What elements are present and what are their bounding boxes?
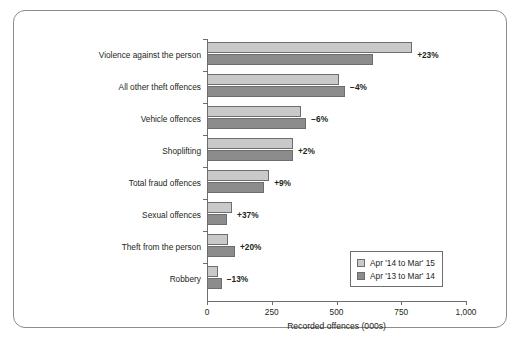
x-axis-tick xyxy=(272,301,273,305)
x-axis-tick-label: 250 xyxy=(265,307,279,317)
x-axis-tick-label: 0 xyxy=(205,307,210,317)
category-label: Vehicle offences xyxy=(141,114,201,124)
percent-change-label: −6% xyxy=(311,114,328,124)
chart-category-row: Sexual offences+37% xyxy=(207,199,466,231)
bar-prior xyxy=(207,278,222,289)
bar-recent xyxy=(207,170,269,181)
legend-item-prior[interactable]: Apr '13 to Mar' 14 xyxy=(357,269,435,282)
category-label: Total fraud offences xyxy=(129,178,201,188)
bar-recent xyxy=(207,234,228,245)
percent-change-label: −13% xyxy=(227,274,248,284)
bar-prior xyxy=(207,214,227,225)
legend-swatch-recent xyxy=(357,259,365,267)
bar-prior xyxy=(207,86,345,97)
bar-recent xyxy=(207,266,218,277)
x-axis-tick-label: 1,000 xyxy=(456,307,477,317)
legend-item-recent[interactable]: Apr '14 to Mar' 15 xyxy=(357,256,435,269)
y-axis-tick xyxy=(203,199,207,200)
y-axis-tick xyxy=(203,231,207,232)
bar-recent xyxy=(207,106,301,117)
percent-change-label: −4% xyxy=(350,82,367,92)
x-axis-tick xyxy=(207,301,208,305)
bar-prior xyxy=(207,54,373,65)
bar-prior xyxy=(207,118,306,129)
bar-prior xyxy=(207,150,293,161)
category-label: Violence against the person xyxy=(99,50,201,60)
chart-category-row: Vehicle offences−6% xyxy=(207,103,466,135)
percent-change-label: +37% xyxy=(237,210,258,220)
bar-recent xyxy=(207,42,412,53)
category-label: Sexual offences xyxy=(142,210,201,220)
category-label: Shoplifting xyxy=(162,146,201,156)
percent-change-label: +9% xyxy=(274,178,291,188)
x-axis-tick xyxy=(401,301,402,305)
bar-prior xyxy=(207,246,235,257)
x-axis-tick xyxy=(466,301,467,305)
bar-prior xyxy=(207,182,264,193)
percent-change-label: +20% xyxy=(240,242,261,252)
x-axis-tick-label: 500 xyxy=(330,307,344,317)
y-axis-tick xyxy=(203,103,207,104)
category-label: All other theft offences xyxy=(119,82,201,92)
x-axis-tick xyxy=(337,301,338,305)
legend-swatch-prior xyxy=(357,272,365,280)
y-axis-tick xyxy=(203,167,207,168)
legend-label-recent: Apr '14 to Mar' 15 xyxy=(370,258,435,268)
chart-category-row: Violence against the person+23% xyxy=(207,39,466,71)
x-axis-tick-label: 750 xyxy=(394,307,408,317)
chart-category-row: Shoplifting+2% xyxy=(207,135,466,167)
percent-change-label: +2% xyxy=(298,146,315,156)
bar-recent xyxy=(207,202,232,213)
y-axis-tick xyxy=(203,263,207,264)
bar-recent xyxy=(207,138,293,149)
y-axis-tick xyxy=(203,135,207,136)
category-label: Theft from the person xyxy=(122,242,201,252)
bar-recent xyxy=(207,74,339,85)
chart-category-row: All other theft offences−4% xyxy=(207,71,466,103)
chart-legend: Apr '14 to Mar' 15 Apr '13 to Mar' 14 xyxy=(350,251,443,287)
figure-frame: Violence against the person+23%All other… xyxy=(13,10,507,328)
percent-change-label: +23% xyxy=(417,50,438,60)
x-axis-title: Recorded offences (000s) xyxy=(207,321,466,331)
y-axis-tick xyxy=(203,39,207,40)
y-axis-tick xyxy=(203,71,207,72)
chart-category-row: Total fraud offences+9% xyxy=(207,167,466,199)
category-label: Robbery xyxy=(170,274,201,284)
legend-label-prior: Apr '13 to Mar' 14 xyxy=(370,271,435,281)
